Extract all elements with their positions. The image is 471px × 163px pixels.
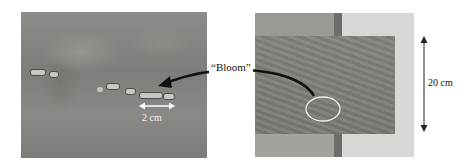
bloom-callout-label: “Bloom” (209, 61, 253, 73)
dimension-label: 20 cm (428, 77, 453, 88)
callout-arrow-icon (0, 0, 471, 163)
